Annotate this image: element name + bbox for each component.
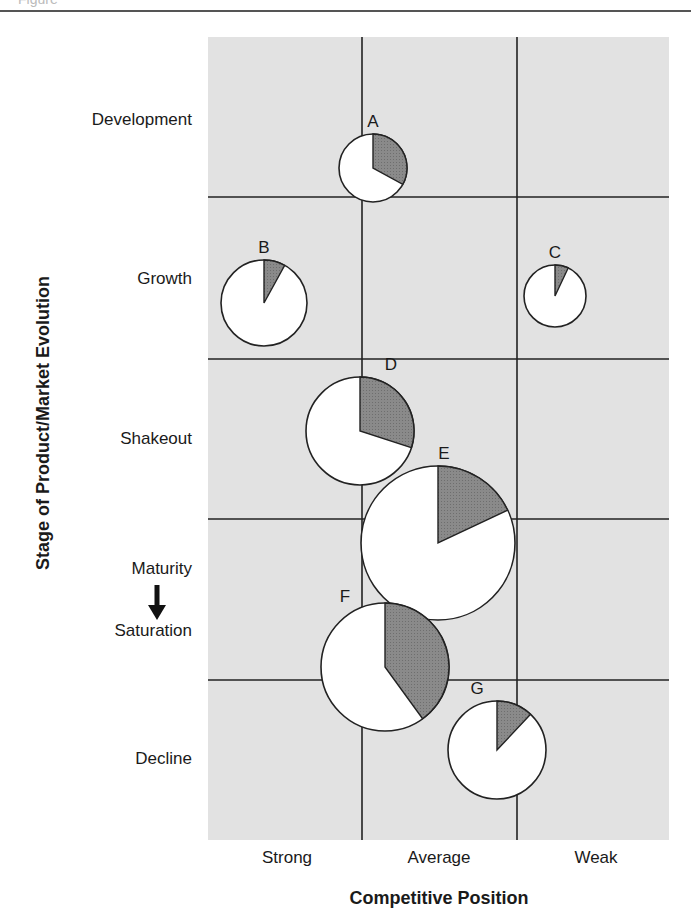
plot-background [208,37,669,840]
pie-e [361,466,515,620]
pie-label-d: D [385,355,397,375]
row-label-growth: Growth [137,269,192,289]
y-axis-title: Stage of Product/Market Evolution [33,276,54,570]
pie-d [306,377,414,485]
pie-label-c: C [549,243,561,263]
pie-label-b: B [258,238,269,258]
pie-g [448,701,546,799]
chart-plot [0,0,691,922]
pie-label-a: A [367,112,378,132]
row-label-development: Development [92,110,192,130]
row-label-saturation: Saturation [115,621,193,641]
pie-a [339,134,407,202]
row-label-decline: Decline [135,749,192,769]
col-label-average: Average [407,848,470,868]
pie-label-f: F [340,587,350,607]
col-label-strong: Strong [262,848,312,868]
pie-label-g: G [470,679,483,699]
row-label-shakeout: Shakeout [120,429,192,449]
col-label-weak: Weak [574,848,617,868]
pie-c [524,265,586,327]
row-label-maturity: Maturity [132,559,192,579]
arrow-down-icon [148,585,166,621]
pie-b [221,260,307,346]
pie-label-e: E [438,444,449,464]
x-axis-title: Competitive Position [349,888,528,909]
pie-f [321,603,449,731]
